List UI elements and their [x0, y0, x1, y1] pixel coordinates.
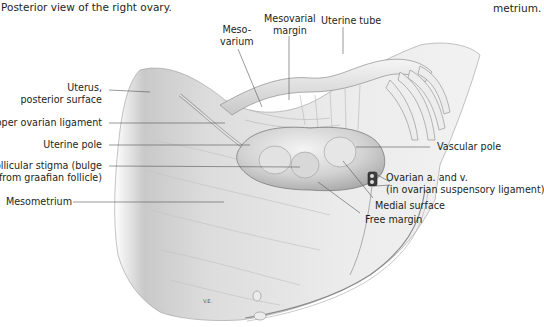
label-line: Uterus, — [20, 82, 102, 94]
label-line: Mesovarial — [264, 13, 316, 25]
label-line: Free margin — [365, 214, 422, 226]
label-mesovarial-margin: Mesovarial margin — [264, 13, 316, 36]
label-medial-surface: Medial surface — [375, 200, 445, 212]
label-line: varium — [220, 36, 254, 48]
label-line: Uterine pole — [43, 139, 102, 151]
label-mesometrium: Mesometrium — [6, 196, 72, 208]
label-line: Uterine tube — [321, 15, 381, 27]
label-uterine-tube: Uterine tube — [321, 15, 381, 27]
label-uterus-posterior-surface: Uterus, posterior surface — [20, 82, 102, 105]
label-line: posterior surface — [20, 94, 102, 106]
label-uterine-pole: Uterine pole — [43, 139, 102, 151]
label-free-margin: Free margin — [365, 214, 422, 226]
label-line: Ovarian a. and v. — [386, 172, 544, 184]
label-line: Medial surface — [375, 200, 445, 212]
label-mesovarium: Meso- varium — [220, 24, 254, 47]
label-line: Meso- — [220, 24, 254, 36]
label-line: from graafian follicle) — [0, 172, 102, 184]
artist-signature: V.E. — [203, 298, 213, 304]
label-line: (in ovarian suspensory ligament) — [386, 184, 544, 196]
label-line: Vascular pole — [437, 141, 501, 153]
label-line: Proper ovarian ligament — [0, 117, 102, 129]
label-line: Follicular stigma (bulge — [0, 160, 102, 172]
label-ovarian-a-and-v: Ovarian a. and v. (in ovarian suspensory… — [386, 172, 544, 195]
label-follicular-stigma: Follicular stigma (bulge from graafian f… — [0, 160, 102, 183]
label-vascular-pole: Vascular pole — [437, 141, 501, 153]
label-line: margin — [264, 25, 316, 37]
label-proper-ovarian-ligament: Proper ovarian ligament — [0, 117, 102, 129]
label-line: Mesometrium — [6, 196, 72, 208]
